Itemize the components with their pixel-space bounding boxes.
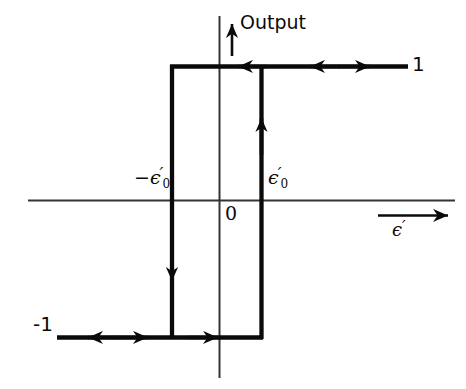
negative-threshold-label: −ϵ′0 bbox=[134, 165, 170, 190]
upper-level-label: 1 bbox=[412, 54, 425, 74]
negative-threshold-symbol: ϵ bbox=[150, 166, 161, 188]
negative-threshold-sign: − bbox=[134, 166, 150, 188]
hysteresis-plot-svg bbox=[0, 0, 466, 389]
input-axis-symbol: ϵ bbox=[392, 219, 402, 240]
axis-group bbox=[28, 16, 455, 378]
positive-threshold-subscript: 0 bbox=[281, 177, 289, 191]
output-axis-label: Output bbox=[240, 13, 306, 32]
lower-level-label: -1 bbox=[33, 314, 53, 334]
origin-label: 0 bbox=[225, 204, 237, 223]
positive-threshold-label: ϵ′0 bbox=[268, 165, 288, 190]
hysteresis-diagram: Output 1 -1 0 −ϵ′0 ϵ′0 ϵ′ bbox=[0, 0, 466, 389]
negative-threshold-subscript: 0 bbox=[162, 177, 170, 191]
input-axis-prime: ′ bbox=[402, 217, 406, 236]
input-axis-label: ϵ′ bbox=[392, 219, 406, 239]
